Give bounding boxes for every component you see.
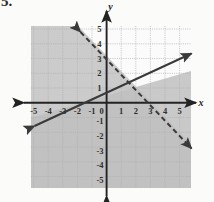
x-tick--4: -4 xyxy=(45,106,53,116)
x-tick-3: 3 xyxy=(148,106,152,116)
origin-label: 0 xyxy=(99,106,103,116)
y-tick--3: -3 xyxy=(96,146,103,156)
y-tick-3: 3 xyxy=(97,54,101,64)
y-tick-2: 2 xyxy=(97,68,101,78)
y-tick-5: 5 xyxy=(97,24,101,34)
x-tick--2: -2 xyxy=(74,106,81,116)
x-tick-2: 2 xyxy=(134,106,138,116)
svg-text:0: 0 xyxy=(99,106,103,116)
y-axis-label: y xyxy=(107,1,113,12)
y-tick--4: -4 xyxy=(96,160,104,170)
y-tick--2: -2 xyxy=(96,131,103,141)
x-tick--3: -3 xyxy=(59,106,66,116)
worksheet-graph-figure: 5. xyxy=(0,0,214,202)
x-tick--1: -1 xyxy=(88,106,95,116)
x-tick--5: -5 xyxy=(30,106,37,116)
y-tick-1: 1 xyxy=(97,83,101,93)
x-axis-label: x xyxy=(198,97,204,108)
coordinate-plane-graph: -5 -4 -3 -2 -1 1 2 3 4 5 0 5 4 3 2 1 -1 … xyxy=(0,0,214,202)
x-tick-5: 5 xyxy=(177,106,181,116)
problem-number-label: 5. xyxy=(1,0,12,9)
y-tick--5: -5 xyxy=(96,175,103,185)
x-tick-1: 1 xyxy=(119,106,123,116)
y-tick--1: -1 xyxy=(96,116,103,126)
